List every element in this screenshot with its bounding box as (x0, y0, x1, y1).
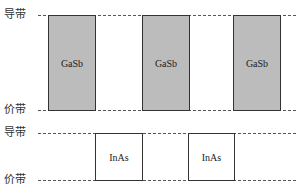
gasb-conduction-band-label: 导带 (4, 9, 26, 21)
gasb-label: GaSb (246, 58, 268, 69)
inas-box: InAs (188, 133, 235, 181)
gasb-box: GaSb (233, 15, 281, 111)
gasb-valence-band-label: 价带 (4, 104, 26, 116)
gasb-box: GaSb (48, 15, 96, 111)
inas-valence-level-line (38, 180, 296, 181)
gasb-label: GaSb (61, 58, 83, 69)
gasb-box: GaSb (142, 15, 190, 111)
inas-label: InAs (109, 152, 128, 163)
inas-box: InAs (95, 133, 143, 181)
gasb-label: GaSb (155, 58, 177, 69)
inas-conduction-band-label: 导带 (4, 127, 26, 139)
inas-valence-band-label: 价带 (4, 174, 26, 186)
inas-label: InAs (202, 152, 221, 163)
inas-conduction-level-line (38, 133, 296, 134)
